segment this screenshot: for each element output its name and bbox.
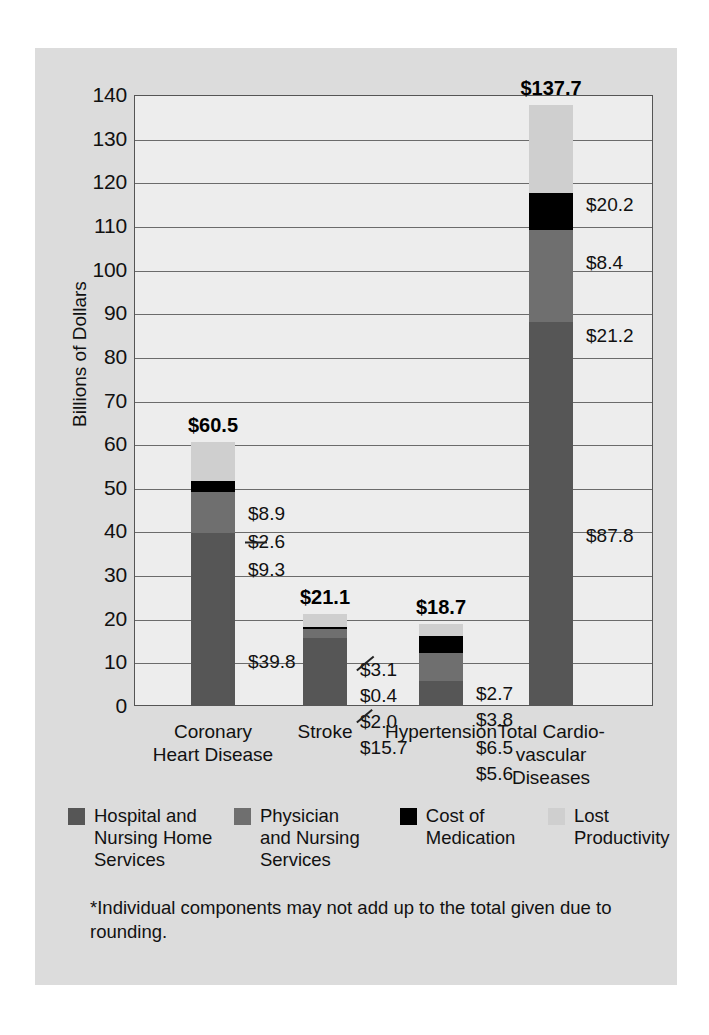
- bar-total-label: $18.7: [416, 596, 466, 619]
- bar-segment-label: $21.2: [586, 325, 634, 347]
- legend-item: Hospital and Nursing Home Services: [68, 805, 234, 871]
- bar-column: [529, 105, 573, 706]
- legend: Hospital and Nursing Home ServicesPhysic…: [68, 805, 668, 871]
- legend-swatch: [68, 808, 85, 825]
- bar-total-label: $21.1: [300, 586, 350, 609]
- bar-total-label: $60.5: [188, 414, 238, 437]
- bar-segment: [191, 533, 235, 707]
- bar-segment: [191, 481, 235, 492]
- bar-segment: [191, 442, 235, 481]
- bar-column: [191, 442, 235, 706]
- bar-segment: [419, 681, 463, 705]
- bar-column: [303, 614, 347, 706]
- legend-swatch: [400, 808, 417, 825]
- bar-segment: [419, 624, 463, 636]
- legend-swatch: [234, 808, 251, 825]
- legend-label: Physician and Nursing Services: [260, 805, 360, 871]
- bar-segment: [303, 614, 347, 628]
- legend-item: Physician and Nursing Services: [234, 805, 400, 871]
- bar-segment: [529, 105, 573, 193]
- bar-segment: [529, 193, 573, 230]
- bar-total-label: $137.7: [520, 77, 581, 100]
- bar-segment: [419, 636, 463, 653]
- bar-segment-label: $87.8: [586, 525, 634, 547]
- chart-card: 1401301201101009080706050403020100 Billi…: [35, 48, 677, 985]
- legend-label: Hospital and Nursing Home Services: [94, 805, 212, 871]
- legend-item: Lost Productivity: [548, 805, 668, 871]
- bar-segment: [529, 322, 573, 705]
- footnote: *Individual components may not add up to…: [90, 896, 660, 944]
- bar-column: [419, 624, 463, 706]
- legend-item: Cost of Medication: [400, 805, 548, 871]
- bar-segment-label: $8.9: [248, 503, 285, 525]
- leader-line: [245, 542, 267, 544]
- bar-segment-label: $20.2: [586, 194, 634, 216]
- x-axis-category-label: Total Cardio- vascular Diseases: [471, 720, 631, 789]
- bar-segment: [303, 638, 347, 707]
- bar-segment: [529, 230, 573, 323]
- legend-swatch: [548, 808, 565, 825]
- bar-segment: [419, 653, 463, 681]
- bar-segment-label: $8.4: [586, 252, 623, 274]
- bar-segment-label: $2.7: [476, 683, 513, 705]
- bar-segment: [191, 492, 235, 533]
- bar-segment-label: $0.4: [360, 685, 397, 707]
- bar-segment-label: $39.8: [248, 651, 296, 673]
- bar-segment-label: $9.3: [248, 559, 285, 581]
- legend-label: Lost Productivity: [574, 805, 670, 849]
- bar-segment: [303, 629, 347, 638]
- legend-label: Cost of Medication: [426, 805, 515, 849]
